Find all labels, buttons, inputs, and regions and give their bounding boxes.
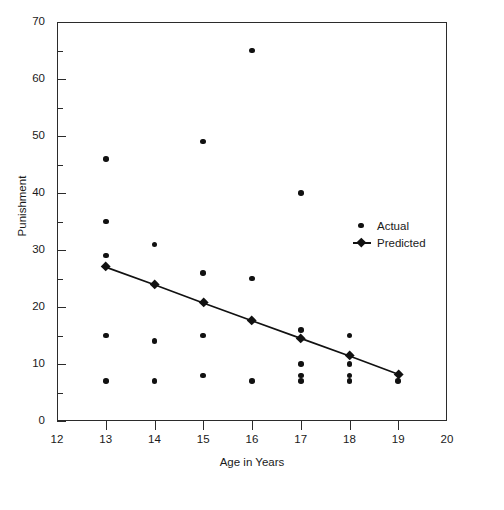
legend-item-predicted: Predicted: [352, 235, 426, 250]
scatter-plot-figure: 010203040506070 121314151617181920 Age i…: [0, 0, 504, 510]
chart-legend: Actual Predicted: [352, 218, 426, 252]
legend-item-actual: Actual: [352, 218, 426, 233]
predicted-marker-icon: [352, 237, 372, 248]
actual-marker-icon: [352, 220, 372, 231]
x-axis-label: Age in Years: [0, 456, 504, 468]
legend-label-predicted: Predicted: [377, 237, 426, 249]
y-axis-label: Punishment: [16, 146, 28, 266]
legend-label-actual: Actual: [377, 220, 409, 232]
predicted-trend-line: [0, 0, 504, 510]
